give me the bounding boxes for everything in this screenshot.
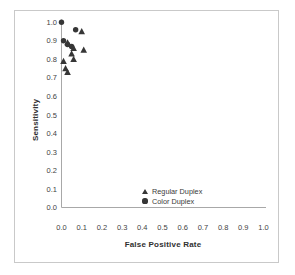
scatter-point-triangle: [70, 56, 77, 62]
y-tick-label: 0.1: [47, 185, 57, 194]
y-tick-label: 0.0: [47, 203, 57, 212]
x-tick-label: 0.1: [76, 223, 86, 232]
x-tick-label: 0.7: [198, 223, 208, 232]
y-tick-label: 0.3: [47, 148, 57, 157]
triangle-marker-icon: [141, 189, 149, 194]
scatter-point-triangle: [78, 28, 85, 34]
y-tick-label: 0.6: [47, 92, 57, 101]
scatter-chart-figure: 0.00.10.20.30.40.50.60.70.80.91.00.00.10…: [0, 0, 295, 275]
x-tick-label: 0.6: [177, 223, 187, 232]
scatter-point-triangle: [80, 47, 87, 53]
y-tick-label: 0.2: [47, 166, 57, 175]
y-tick-label: 0.8: [47, 55, 57, 64]
x-tick-label: 1.0: [258, 223, 268, 232]
x-tick-label: 0.0: [56, 223, 66, 232]
circle-marker-icon: [141, 198, 149, 203]
x-tick-label: 0.9: [238, 223, 248, 232]
legend-label: Color Duplex: [152, 197, 194, 206]
x-tick-label: 0.3: [117, 223, 127, 232]
x-tick-label: 0.2: [97, 223, 107, 232]
x-axis-title: False Positive Rate: [62, 240, 264, 249]
y-tick-label: 0.4: [47, 129, 57, 138]
scatter-plot-canvas: 0.00.10.20.30.40.50.60.70.80.91.00.00.10…: [0, 0, 295, 275]
y-tick-label: 1.0: [47, 18, 57, 27]
scatter-point-circle: [69, 44, 74, 49]
scatter-point-triangle: [68, 50, 75, 56]
y-axis-title-text: Sensitivity: [31, 99, 40, 141]
scatter-point-circle: [61, 38, 66, 43]
x-tick-label: 0.4: [137, 223, 147, 232]
chart-legend: Regular Duplex Color Duplex: [141, 186, 202, 206]
x-tick-label: 0.5: [157, 223, 167, 232]
legend-item-regular-duplex: Regular Duplex: [141, 186, 202, 196]
y-tick-label: 0.9: [47, 36, 57, 45]
scatter-point-circle: [59, 20, 64, 25]
legend-label: Regular Duplex: [152, 187, 202, 196]
scatter-point-circle: [73, 27, 78, 32]
x-tick-label: 0.8: [218, 223, 228, 232]
y-tick-label: 0.5: [47, 111, 57, 120]
y-tick-label: 0.7: [47, 73, 57, 82]
legend-item-color-duplex: Color Duplex: [141, 196, 202, 206]
